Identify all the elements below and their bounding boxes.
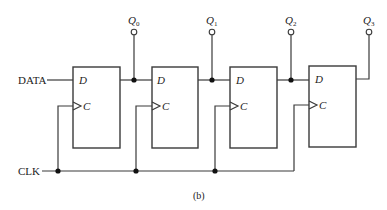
clk-junction-0	[55, 168, 60, 173]
clk-junction-1	[133, 168, 138, 173]
data-label: DATA	[18, 74, 47, 86]
q3-terminal	[366, 29, 372, 35]
c-pin-label: C	[162, 100, 170, 112]
q2-label: Q2	[285, 14, 297, 28]
d-pin-label: D	[156, 74, 165, 86]
d-pin-label: D	[78, 74, 87, 86]
c-pin-label: C	[240, 100, 248, 112]
q1-junction	[209, 77, 214, 82]
q2-terminal	[288, 29, 294, 35]
q1-terminal	[209, 29, 215, 35]
clk-to-ff3-wire	[294, 105, 309, 171]
q2-junction	[288, 77, 293, 82]
q3-output-wire	[356, 35, 369, 79]
q0-terminal	[131, 29, 137, 35]
q3-label: Q3	[363, 14, 375, 28]
q0-label: Q0	[128, 14, 140, 28]
q0-junction	[131, 77, 136, 82]
clk-to-ff2-wire	[215, 106, 230, 171]
clk-junction-2	[212, 168, 217, 173]
c-pin-label: C	[319, 99, 327, 111]
d-pin-label: D	[314, 73, 323, 85]
shift-register-diagram: DATA CLK D C D C D C D C Q0 Q1 Q2 Q3 (b)	[0, 0, 387, 210]
clk-to-ff1-wire	[136, 106, 152, 171]
figure-caption: (b)	[193, 190, 205, 202]
clk-label: CLK	[18, 165, 40, 177]
clk-to-ff0-wire	[58, 106, 73, 171]
q1-label: Q1	[206, 14, 218, 28]
c-pin-label: C	[83, 100, 91, 112]
d-pin-label: D	[235, 74, 244, 86]
